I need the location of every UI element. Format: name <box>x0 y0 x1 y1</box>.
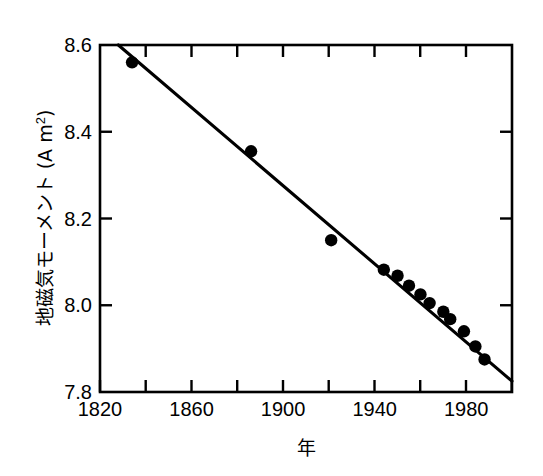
data-point <box>378 263 390 275</box>
y-axis-title: 地磁気モーメント (A m2) <box>33 110 56 327</box>
x-tick-label: 1860 <box>169 398 214 420</box>
x-tick-label: 1980 <box>444 398 489 420</box>
y-axis-title-main: 地磁気モーメント (A m <box>34 124 56 326</box>
y-tick-label: 8.4 <box>64 121 92 143</box>
data-point <box>423 297 435 309</box>
data-point <box>126 56 138 68</box>
x-tick-label: 1940 <box>352 398 397 420</box>
data-point <box>391 270 403 282</box>
plot-area-background <box>100 45 512 392</box>
y-tick-label: 8.2 <box>64 208 92 230</box>
x-axis-tick-labels: 18201860190019401980 <box>78 398 489 420</box>
x-axis-title: 年 <box>297 437 316 459</box>
y-axis-tick-labels: 7.88.08.28.48.6 <box>64 34 92 403</box>
data-point <box>458 325 470 337</box>
data-point <box>403 280 415 292</box>
data-point <box>325 234 337 246</box>
data-point <box>478 353 490 365</box>
data-point <box>414 288 426 300</box>
data-point <box>245 145 257 157</box>
geomagnetic-moment-chart: 18201860190019401980 7.88.08.28.48.6 年 地… <box>0 0 543 476</box>
data-point <box>469 340 481 352</box>
y-axis-title-group: 地磁気モーメント (A m2) <box>33 110 56 327</box>
x-tick-label: 1900 <box>261 398 306 420</box>
y-axis-title-tail: ) <box>34 110 56 117</box>
y-tick-label: 7.8 <box>64 381 92 403</box>
y-axis-title-exponent: 2 <box>33 117 48 124</box>
y-tick-label: 8.0 <box>64 294 92 316</box>
y-tick-label: 8.6 <box>64 34 92 56</box>
data-point <box>444 313 456 325</box>
figure-container: 18201860190019401980 7.88.08.28.48.6 年 地… <box>0 0 543 476</box>
